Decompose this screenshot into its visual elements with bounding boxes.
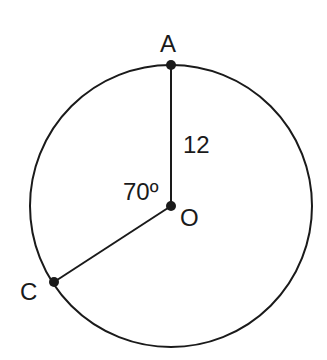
point-c-dot xyxy=(49,277,59,287)
angle-label: 70º xyxy=(123,178,159,205)
radius-oc xyxy=(54,206,171,282)
label-a: A xyxy=(160,30,176,57)
circle-diagram: A O C 12 70º xyxy=(0,0,327,360)
label-c: C xyxy=(20,278,37,305)
label-o: O xyxy=(180,204,199,231)
point-o-dot xyxy=(166,201,176,211)
point-a-dot xyxy=(166,60,176,70)
length-label-oa: 12 xyxy=(183,131,210,158)
